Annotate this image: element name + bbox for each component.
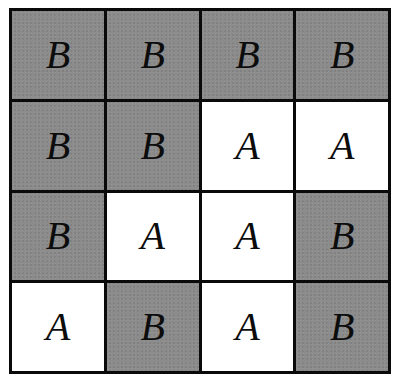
letter-grid: B B B B B B A A B A A B A B A B bbox=[9, 8, 391, 374]
grid-cell-r2c1: B bbox=[12, 102, 104, 190]
grid-cell-r3c4: B bbox=[296, 193, 388, 281]
grid-cell-r1c3: B bbox=[202, 11, 294, 99]
grid-cell-r2c3: A bbox=[202, 102, 294, 190]
grid-cell-r4c3: A bbox=[202, 283, 294, 371]
grid-cell-r2c2: B bbox=[107, 102, 199, 190]
grid-cell-r4c1: A bbox=[12, 283, 104, 371]
grid-cell-r4c2: B bbox=[107, 283, 199, 371]
grid-cell-r1c1: B bbox=[12, 11, 104, 99]
grid-cell-r1c2: B bbox=[107, 11, 199, 99]
grid-cell-r3c1: B bbox=[12, 193, 104, 281]
grid-cell-r3c3: A bbox=[202, 193, 294, 281]
grid-cell-r2c4: A bbox=[296, 102, 388, 190]
grid-cell-r3c2: A bbox=[107, 193, 199, 281]
grid-cell-r1c4: B bbox=[296, 11, 388, 99]
grid-cell-r4c4: B bbox=[296, 283, 388, 371]
